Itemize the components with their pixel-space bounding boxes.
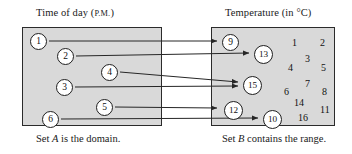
set-a-element-3: 3 (56, 79, 73, 96)
set-b-title-close: ) (308, 7, 312, 18)
set-b-caption: Set B contains the range. (222, 133, 326, 144)
set-a-title: Time of day (P.M.) (36, 7, 114, 18)
set-b-title: Temperature (in °C) (225, 7, 311, 18)
set-b-other-element-14: 14 (294, 98, 304, 108)
set-b-other-element-4: 4 (288, 63, 293, 73)
set-b-caption-before: Set (222, 133, 238, 144)
set-b-range-element-12: 12 (224, 101, 243, 120)
set-a-title-smallcaps: P.M. (94, 9, 110, 18)
set-b-other-element-3: 3 (305, 54, 310, 64)
set-b-caption-after: contains the range. (244, 133, 326, 144)
set-a-caption-after: is the domain. (58, 133, 120, 144)
set-b-other-element-8: 8 (322, 87, 327, 97)
set-a-element-4: 4 (101, 64, 118, 81)
set-b-range-element-13: 13 (254, 45, 273, 64)
set-a-element-6: 6 (42, 111, 59, 128)
set-a-element-2: 2 (57, 48, 74, 65)
set-a-caption: Set A is the domain. (36, 133, 120, 144)
set-a-element-5: 5 (96, 99, 113, 116)
set-b-range-element-10: 10 (263, 110, 282, 129)
set-a-title-close: ) (110, 7, 114, 18)
set-b-title-unit: °C (296, 7, 307, 18)
mapping-diagram-figure: Time of day (P.M.) Temperature (in °C) 1… (0, 0, 352, 154)
set-b-other-element-5: 5 (321, 63, 326, 73)
set-b-other-element-7: 7 (305, 79, 310, 89)
set-b-title-main: Temperature (in (225, 7, 296, 18)
set-b-other-element-16: 16 (298, 113, 308, 123)
set-b-other-element-1: 1 (292, 38, 297, 48)
set-b-other-element-2: 2 (320, 38, 325, 48)
set-b-range-element-15: 15 (243, 76, 262, 95)
set-b-other-element-11: 11 (320, 105, 330, 115)
set-b-other-element-6: 6 (284, 87, 289, 97)
set-a-caption-before: Set (36, 133, 52, 144)
set-b-range-element-9: 9 (222, 34, 239, 51)
set-a-element-1: 1 (30, 33, 47, 50)
set-a-title-main: Time of day ( (36, 7, 94, 18)
